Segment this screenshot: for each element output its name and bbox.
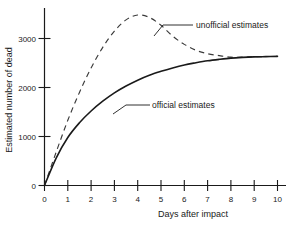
y-tick-labels-group: 3000 2000 1000 0 <box>18 35 36 191</box>
y-tick-label-2000: 2000 <box>18 84 36 93</box>
official-estimates-label: official estimates <box>152 100 215 110</box>
x-tick-label-2: 2 <box>89 195 94 204</box>
x-tick-label-1: 1 <box>66 195 71 204</box>
y-tick-label-3000: 3000 <box>18 35 36 44</box>
y-tick-label-0: 0 <box>32 182 37 191</box>
x-axis-title: Days after impact <box>158 209 229 219</box>
series-official-estimates <box>45 56 278 185</box>
chart-svg: 3000 2000 1000 0 0 1 2 3 4 5 6 <box>0 0 301 226</box>
x-tick-labels-group: 0 1 2 3 4 5 6 7 8 9 10 <box>42 195 282 204</box>
x-tick-label-3: 3 <box>112 195 117 204</box>
annotation-official-group: official estimates <box>113 100 215 114</box>
annotation-unofficial-group: unofficial estimates <box>154 20 268 36</box>
unofficial-estimates-label: unofficial estimates <box>196 20 268 30</box>
chart-figure: 3000 2000 1000 0 0 1 2 3 4 5 6 <box>0 0 301 226</box>
y-tick-label-1000: 1000 <box>18 133 36 142</box>
y-axis-title: Estimated number of dead <box>4 47 14 153</box>
official-leader-line <box>113 105 150 114</box>
axes-group <box>45 8 287 186</box>
x-tick-label-4: 4 <box>135 195 140 204</box>
unofficial-leader-line <box>154 25 193 36</box>
x-tick-label-9: 9 <box>252 195 257 204</box>
x-tick-label-6: 6 <box>182 195 187 204</box>
x-tick-label-0: 0 <box>42 195 47 204</box>
x-tick-label-7: 7 <box>205 195 210 204</box>
x-tick-label-5: 5 <box>159 195 164 204</box>
x-tick-label-8: 8 <box>229 195 234 204</box>
x-tick-label-10: 10 <box>273 195 282 204</box>
